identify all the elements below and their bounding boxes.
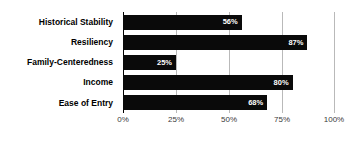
bar-row: 80% xyxy=(123,73,335,93)
category-label: Family-Centeredness xyxy=(27,58,113,67)
category-label-row: Family-Centeredness xyxy=(0,52,118,72)
category-label-row: Ease of Entry xyxy=(0,93,118,113)
category-label: Income xyxy=(83,78,113,87)
x-tick-label: 50% xyxy=(221,116,237,124)
bar: 25% xyxy=(123,55,176,70)
plot-area: 56% 87% 25% 80% 68% xyxy=(123,12,335,113)
bar-value-label: 25% xyxy=(157,59,172,67)
category-label: Resiliency xyxy=(71,38,113,47)
category-label-row: Historical Stability xyxy=(0,12,118,32)
x-axis: 0% 25% 50% 75% 100% xyxy=(123,116,335,130)
bar: 68% xyxy=(123,95,267,110)
bar-value-label: 56% xyxy=(223,18,238,26)
bar-row: 68% xyxy=(123,93,335,113)
bar-row: 56% xyxy=(123,12,335,32)
bar-value-label: 68% xyxy=(248,99,263,107)
x-tick-label: 75% xyxy=(274,116,290,124)
bar: 56% xyxy=(123,15,242,30)
bar-series: 56% 87% 25% 80% 68% xyxy=(123,12,335,113)
bar-value-label: 80% xyxy=(274,79,289,87)
bar-value-label: 87% xyxy=(288,39,303,47)
bar-chart: Historical Stability Resiliency Family-C… xyxy=(0,0,359,144)
category-label: Historical Stability xyxy=(39,18,113,27)
category-label: Ease of Entry xyxy=(59,99,113,108)
x-tick-label: 100% xyxy=(324,116,344,124)
bar: 80% xyxy=(123,75,293,90)
category-axis: Historical Stability Resiliency Family-C… xyxy=(0,12,118,113)
bar-row: 25% xyxy=(123,52,335,72)
bar: 87% xyxy=(123,35,307,50)
bar-row: 87% xyxy=(123,32,335,52)
x-tick-label: 0% xyxy=(117,116,129,124)
category-label-row: Income xyxy=(0,73,118,93)
x-tick-label: 25% xyxy=(168,116,184,124)
category-label-row: Resiliency xyxy=(0,32,118,52)
